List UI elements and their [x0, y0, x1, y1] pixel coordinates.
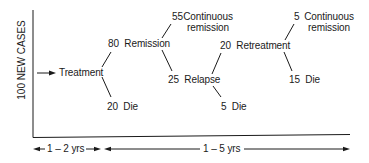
node-count: 25	[168, 74, 179, 85]
node-count: 20	[220, 40, 231, 51]
edge-relapse-retreatment	[212, 53, 221, 74]
edge-remission-relapse	[162, 50, 172, 71]
node-retreatment: 20 Retreatment	[220, 40, 290, 51]
node-label: Die	[123, 101, 138, 112]
edge-treatment-remission	[102, 52, 111, 67]
timeline-phase1-label: 1 – 2 yrs	[47, 143, 84, 154]
node-count: 15	[289, 74, 300, 85]
phase2-right-arrowhead-icon	[343, 147, 350, 151]
node-die-relapse: 5 Die	[221, 101, 247, 112]
phase1-right-arrowhead-icon	[94, 147, 101, 151]
node-continuous-remission-2-line1: Continuous	[303, 11, 355, 22]
node-count: 5	[221, 101, 226, 112]
node-count: 80	[108, 38, 119, 49]
edge-retreatment-continuous	[285, 24, 294, 40]
entry-arrowhead-icon	[49, 71, 56, 76]
phase2-left-arrowhead-icon	[104, 147, 111, 151]
node-label: Treatment	[59, 67, 103, 78]
node-continuous-remission-2-count: 5	[294, 11, 299, 22]
node-remission: 80 Remission	[108, 38, 170, 49]
node-treatment: Treatment	[59, 67, 103, 78]
node-continuous-remission-1-line2: remission	[183, 22, 233, 33]
node-die-retreatment: 15 Die	[289, 74, 320, 85]
x-axis	[33, 135, 350, 138]
timeline-phase2-label: 1 – 5 yrs	[203, 143, 240, 154]
edge-treatment-die	[102, 77, 111, 97]
node-die-initial: 20 Die	[107, 101, 138, 112]
edge-relapse-die	[213, 86, 221, 97]
edge-retreatment-die	[284, 52, 292, 71]
node-label: Die	[305, 74, 320, 85]
node-label: Die	[232, 101, 247, 112]
node-label: Remission	[124, 38, 170, 49]
node-continuous-remission-1-line1: Continuous	[183, 11, 233, 22]
node-label: Retreatment	[236, 40, 290, 51]
node-label: Relapse	[184, 74, 220, 85]
y-axis-label: 100 NEW CASES	[16, 20, 27, 99]
phase1-left-arrowhead-icon	[33, 147, 40, 151]
node-continuous-remission-2-line2: remission	[303, 22, 355, 33]
node-count: 20	[107, 101, 118, 112]
edge-remission-continuous	[162, 24, 171, 38]
node-continuous-remission-1-count: 55	[172, 11, 183, 22]
node-relapse: 25 Relapse	[168, 74, 220, 85]
